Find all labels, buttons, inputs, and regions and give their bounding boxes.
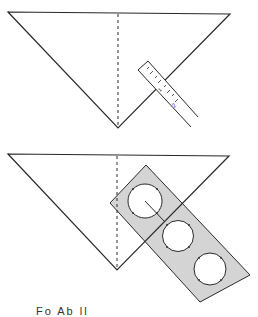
top-panel: 1 2 [8, 12, 230, 128]
ruler: 1 2 [138, 61, 198, 127]
top-triangle [8, 12, 230, 128]
figure-caption: Fo Ab ll [36, 305, 89, 317]
bottom-panel [8, 154, 250, 302]
